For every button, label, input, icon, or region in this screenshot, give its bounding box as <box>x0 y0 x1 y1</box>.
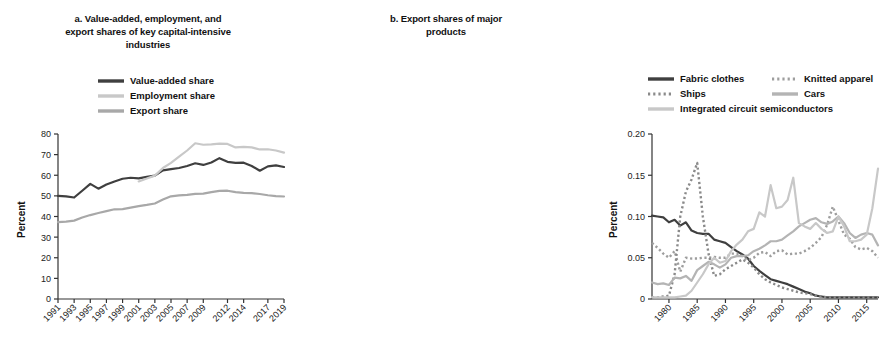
panel-a-plot: 0102030405060708019911993199519971999200… <box>0 126 296 351</box>
panel-b: b. Export shares of major products Fabri… <box>296 0 592 351</box>
x-tick-label: 1995 <box>73 302 94 323</box>
x-tick-label: 1995 <box>737 302 758 323</box>
y-tick-label: 0.05 <box>627 253 645 263</box>
legend-swatch-ships <box>648 88 674 100</box>
x-tick-label: 2005 <box>793 302 814 323</box>
y-tick-label: 0 <box>640 294 645 304</box>
y-tick-label: 0 <box>46 294 51 304</box>
panel-a-title: a. Value-added, employment, and export s… <box>28 12 268 51</box>
x-tick-label: 1997 <box>90 302 111 323</box>
x-tick-label: 1990 <box>709 302 730 323</box>
x-tick-label: 2007 <box>170 302 191 323</box>
legend-item-value-added-share: Value-added share <box>98 73 215 88</box>
legend-label-value-added-share: Value-added share <box>130 75 214 86</box>
legend-swatch-knitted-apparel <box>772 73 798 85</box>
legend-swatch-fabric-clothes <box>648 73 674 85</box>
panel-a-title-line-3: industries <box>28 38 268 51</box>
series-line <box>652 169 878 298</box>
legend-label-fabric-clothes: Fabric clothes <box>680 73 744 84</box>
legend-item-export-share: Export share <box>98 103 215 118</box>
y-tick-label: 60 <box>41 171 51 181</box>
legend-label-knitted-apparel: Knitted apparel <box>804 73 873 84</box>
y-tick-label: 50 <box>41 191 51 201</box>
legend-label-export-share: Export share <box>130 105 188 116</box>
legend-item-integrated-circuit-semiconductors: Integrated circuit semiconductors <box>648 101 884 116</box>
legend-label-employment-share: Employment share <box>130 90 215 101</box>
y-tick-label: 20 <box>41 253 51 263</box>
panel-a: a. Value-added, employment, and export s… <box>0 0 296 351</box>
panel-a-legend: Value-added share Employment share Expor… <box>98 73 215 118</box>
legend-label-integrated-circuit-semiconductors: Integrated circuit semiconductors <box>680 103 833 114</box>
legend-item-employment-share: Employment share <box>98 88 215 103</box>
x-tick-label: 1985 <box>680 302 701 323</box>
legend-label-cars: Cars <box>804 88 825 99</box>
legend-swatch-integrated-circuit-semiconductors <box>648 103 674 115</box>
y-tick-label: 30 <box>41 233 51 243</box>
y-tick-label: 80 <box>41 129 51 139</box>
x-tick-label: 2003 <box>138 302 159 323</box>
y-tick-label: 10 <box>41 274 51 284</box>
legend-swatch-value-added-share <box>98 75 124 87</box>
x-tick-label: 1999 <box>106 302 127 323</box>
legend-item-ships: Ships <box>648 86 772 101</box>
x-tick-label: 2015 <box>850 302 871 323</box>
panel-b-legend: Fabric clothes Knitted apparel Ships <box>648 71 884 116</box>
legend-swatch-employment-share <box>98 90 124 102</box>
x-tick-label: 2010 <box>822 302 843 323</box>
legend-swatch-cars <box>772 88 798 100</box>
panel-b-plot: 00.050.100.150.2019801985199019952000200… <box>592 126 884 351</box>
x-tick-label: 2019 <box>267 302 288 323</box>
legend-item-fabric-clothes: Fabric clothes <box>648 71 772 86</box>
x-tick-label: 1993 <box>57 302 78 323</box>
x-tick-label: 1991 <box>41 302 62 323</box>
y-tick-label: 0.10 <box>627 212 645 222</box>
panel-a-title-line-1: a. Value-added, employment, and <box>28 12 268 25</box>
legend-swatch-export-share <box>98 105 124 117</box>
legend-item-knitted-apparel: Knitted apparel <box>772 71 884 86</box>
legend-item-cars: Cars <box>772 86 884 101</box>
panel-b-title-line-2: products <box>346 25 546 38</box>
legend-label-ships: Ships <box>680 88 706 99</box>
x-tick-label: 2000 <box>765 302 786 323</box>
y-tick-label: 70 <box>41 150 51 160</box>
panel-a-title-line-2: export shares of key capital-intensive <box>28 25 268 38</box>
x-tick-label: 1980 <box>652 302 673 323</box>
x-tick-label: 2005 <box>154 302 175 323</box>
x-tick-label: 2014 <box>227 302 248 323</box>
x-tick-label: 2001 <box>122 302 143 323</box>
x-tick-label: 2012 <box>211 302 232 323</box>
x-tick-label: 2009 <box>186 302 207 323</box>
x-tick-label: 2017 <box>251 302 272 323</box>
series-line <box>58 191 284 222</box>
y-tick-label: 40 <box>41 212 51 222</box>
y-tick-label: 0.20 <box>627 129 645 139</box>
panel-b-title-line-1: b. Export shares of major <box>346 12 546 25</box>
y-tick-label: 0.15 <box>627 171 645 181</box>
panel-b-title: b. Export shares of major products <box>346 12 546 38</box>
